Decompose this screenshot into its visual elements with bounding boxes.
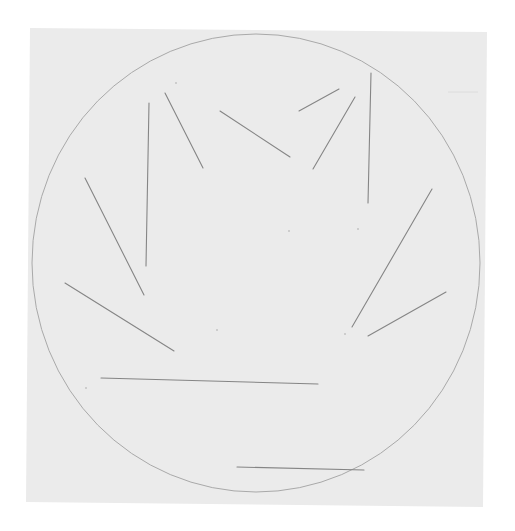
paper-speck	[344, 333, 345, 334]
artwork-canvas	[0, 0, 515, 531]
paper-speck	[216, 329, 217, 330]
paper-speck	[288, 230, 289, 231]
paper-speck	[85, 387, 86, 388]
paper-speck	[357, 228, 358, 229]
paper-speck	[175, 82, 176, 83]
paper-sheet	[26, 28, 487, 507]
